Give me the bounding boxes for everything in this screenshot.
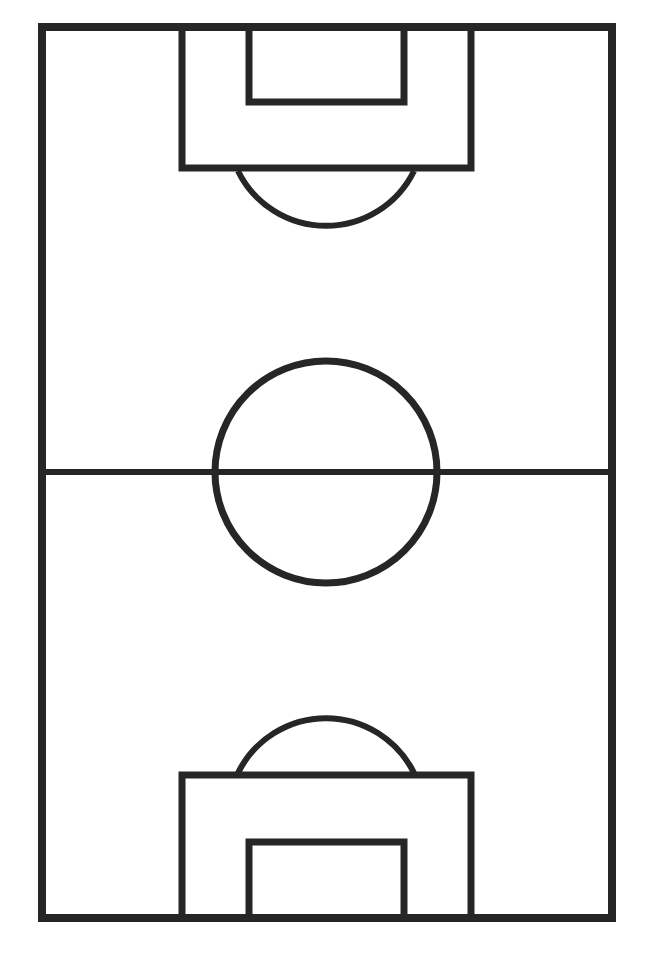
bottom-penalty-box (182, 775, 471, 918)
soccer-field-diagram (0, 0, 654, 962)
bottom-goal-box (249, 842, 404, 918)
top-penalty-arc (238, 171, 414, 226)
top-goal-box (249, 27, 404, 102)
bottom-penalty-arc (238, 718, 414, 773)
top-penalty-box (182, 27, 471, 168)
